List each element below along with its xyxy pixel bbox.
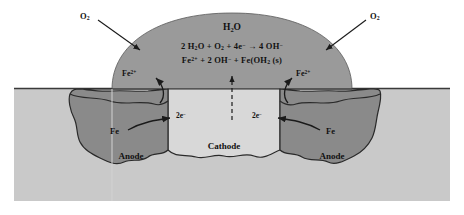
fe-left-label: Fe xyxy=(110,127,119,136)
electrons-left-label: 2e− xyxy=(176,112,186,120)
water-label: H2O xyxy=(223,23,241,33)
o2-left-label: O2 xyxy=(80,12,90,22)
corrosion-diagram: O2 O2 H2O 2 H2O + O2 + 4e− → 4 OH− Fe2+ … xyxy=(0,0,464,215)
fe2-right-label: Fe2+ xyxy=(296,70,310,78)
fe-right-label: Fe xyxy=(326,127,335,136)
fe2-left-label: Fe2+ xyxy=(122,70,136,78)
anode-left-label: Anode xyxy=(118,152,143,161)
anode-right-label: Anode xyxy=(319,152,344,161)
electrons-right-label: 2e− xyxy=(252,112,262,120)
o2-right-label: O2 xyxy=(370,12,380,22)
cathode-label: Cathode xyxy=(208,142,241,151)
precipitation-equation: Fe2+ + 2 OH− + Fe(OH2 (s) xyxy=(182,56,282,66)
cathodic-equation: 2 H2O + O2 + 4e− → 4 OH− xyxy=(181,42,283,52)
